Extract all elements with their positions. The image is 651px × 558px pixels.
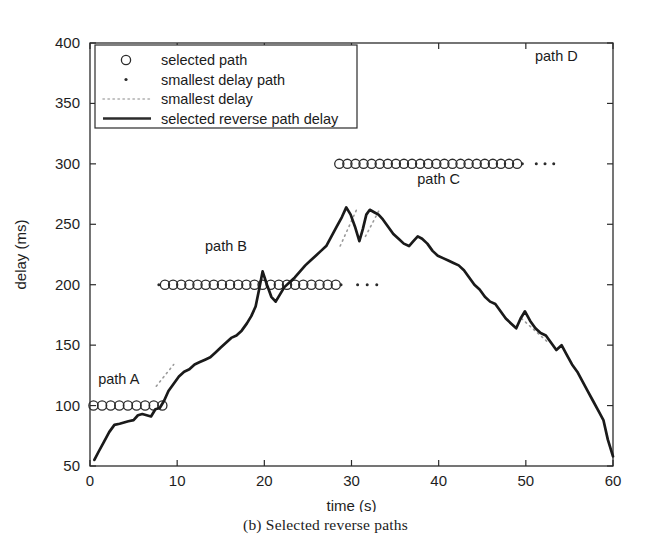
x-tick-label-10: 10 xyxy=(169,472,186,489)
x-tick-label-0: 0 xyxy=(86,472,94,489)
figure-selected-reverse-paths: 010203040506050100150200250300350400time… xyxy=(0,0,651,558)
y-tick-label-250: 250 xyxy=(55,215,80,232)
y-tick-label-50: 50 xyxy=(63,457,80,474)
smallest-delay-dot-marker xyxy=(375,283,378,286)
y-tick-label-350: 350 xyxy=(55,94,80,111)
smallest-delay-dot-marker xyxy=(544,162,547,165)
smallest-delay-dot-marker xyxy=(552,162,555,165)
x-tick-label-40: 40 xyxy=(430,472,447,489)
x-axis-title: time (s) xyxy=(327,497,377,512)
delay-vs-time-chart: 010203040506050100150200250300350400time… xyxy=(0,0,651,512)
smallest-delay-dot-marker xyxy=(521,162,524,165)
x-tick-label-60: 60 xyxy=(605,472,622,489)
legend-label-0: selected path xyxy=(161,52,247,68)
smallest-delay-dot-marker xyxy=(340,283,343,286)
path-a-label: path A xyxy=(98,371,139,387)
y-axis-title: delay (ms) xyxy=(12,219,29,289)
x-tick-label-30: 30 xyxy=(343,472,360,489)
smallest-delay-dot-marker xyxy=(157,283,160,286)
legend-label-1: smallest delay path xyxy=(161,72,285,88)
x-tick-label-50: 50 xyxy=(517,472,534,489)
path-d-label: path D xyxy=(535,48,578,64)
y-tick-label-200: 200 xyxy=(55,276,80,293)
x-tick-label-20: 20 xyxy=(256,472,273,489)
legend-label-3: selected reverse path delay xyxy=(161,111,339,127)
figure-caption: (b) Selected reverse paths xyxy=(0,516,651,534)
y-tick-label-100: 100 xyxy=(55,397,80,414)
smallest-delay-dot-marker xyxy=(356,283,359,286)
y-tick-label-300: 300 xyxy=(55,155,80,172)
path-c-label: path C xyxy=(417,171,460,187)
legend-label-2: smallest delay xyxy=(161,91,254,107)
path-b-label: path B xyxy=(205,238,247,254)
y-tick-label-150: 150 xyxy=(55,336,80,353)
smallest-delay-dot-marker xyxy=(535,162,538,165)
smallest-delay-dot-marker xyxy=(366,283,369,286)
y-tick-label-400: 400 xyxy=(55,34,80,51)
legend-dot-icon xyxy=(124,78,127,81)
